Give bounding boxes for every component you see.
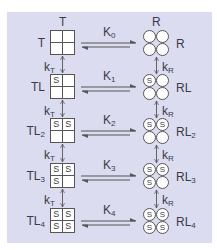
equilibrium-constant-label: K2 xyxy=(103,114,115,126)
tense-state-square: SS xyxy=(50,118,75,143)
subunit-circle: S xyxy=(143,118,156,131)
kr-rate-label: kR xyxy=(162,194,174,206)
relaxed-state-circles: SSS xyxy=(143,163,170,190)
tense-state-square: SSS xyxy=(50,163,75,188)
subunit-cell xyxy=(63,87,75,98)
equilibrium-arrows-icon xyxy=(80,173,138,183)
tense-state-square: SSSS xyxy=(50,208,75,233)
subunit-cell xyxy=(63,176,75,187)
equilibrium-constant-label: K3 xyxy=(103,159,115,171)
kt-rate-label: kT xyxy=(44,105,55,117)
relaxed-state-label: RL4 xyxy=(176,216,196,228)
subunit-cell: S xyxy=(51,209,63,221)
subunit-circle: S xyxy=(143,74,156,87)
subunit-cell xyxy=(51,43,63,55)
subunit-cell xyxy=(51,131,63,142)
subunit-cell: S xyxy=(63,209,75,221)
equilibrium-constant-label: K4 xyxy=(103,204,115,216)
kt-rate-label: kT xyxy=(44,61,55,73)
kt-rate-label: kT xyxy=(44,194,55,206)
subunit-circle xyxy=(143,87,156,100)
vertical-equilibrium-t-icon xyxy=(60,144,65,162)
subunit-circle: S xyxy=(143,176,156,189)
vertical-equilibrium-r-icon xyxy=(154,57,159,74)
vertical-equilibrium-t-icon xyxy=(60,56,65,73)
subunit-cell xyxy=(63,131,75,142)
subunit-cell: S xyxy=(51,164,63,176)
subunit-circle xyxy=(156,176,169,189)
equilibrium-arrows-icon xyxy=(80,128,138,138)
relaxed-state-label: R xyxy=(176,38,185,50)
subunit-cell xyxy=(63,31,75,43)
relaxed-state-label: RL2 xyxy=(176,126,196,138)
subunit-circle: S xyxy=(143,208,156,221)
relaxed-state-circles: SSSS xyxy=(143,208,170,235)
tense-state-square: S xyxy=(50,74,75,99)
subunit-cell: S xyxy=(63,119,75,131)
subunit-circle xyxy=(143,43,156,56)
tense-state-label: TL3 xyxy=(27,170,45,182)
subunit-cell xyxy=(51,31,63,43)
tense-state-label: T xyxy=(38,37,45,49)
kt-rate-label: kT xyxy=(44,149,55,161)
subunit-cell: S xyxy=(51,176,63,187)
relaxed-state-circles: SS xyxy=(143,118,170,145)
kr-rate-label: kR xyxy=(162,105,174,117)
tense-state-label: TL4 xyxy=(27,215,45,227)
equilibrium-arrows-icon xyxy=(80,84,138,94)
subunit-cell: S xyxy=(63,164,75,176)
equilibrium-constant-label: K1 xyxy=(103,70,115,82)
subunit-circle xyxy=(156,74,169,87)
subunit-cell: S xyxy=(51,75,63,87)
equilibrium-arrows-icon xyxy=(80,40,138,50)
equilibrium-constant-label: K0 xyxy=(103,26,115,38)
tense-state-square xyxy=(50,30,75,55)
vertical-equilibrium-r-icon xyxy=(154,190,159,208)
relaxed-state-label: RL3 xyxy=(176,171,196,183)
relaxed-state-circles: S xyxy=(143,74,170,101)
subunit-circle: S xyxy=(143,163,156,176)
subunit-cell xyxy=(63,75,75,87)
subunit-circle xyxy=(156,87,169,100)
subunit-cell xyxy=(63,43,75,55)
subunit-cell: S xyxy=(63,221,75,232)
vertical-equilibrium-r-icon xyxy=(154,145,159,163)
equilibrium-arrows-icon xyxy=(80,218,138,228)
relaxed-state-column-label: R xyxy=(152,16,161,28)
subunit-circle: S xyxy=(156,163,169,176)
subunit-circle xyxy=(143,30,156,43)
subunit-circle: S xyxy=(156,221,169,234)
subunit-cell xyxy=(51,87,63,98)
tense-state-label: TL xyxy=(31,81,45,93)
subunit-circle xyxy=(156,43,169,56)
subunit-cell: S xyxy=(51,221,63,232)
vertical-equilibrium-t-icon xyxy=(60,100,65,117)
subunit-circle xyxy=(143,131,156,144)
subunit-cell: S xyxy=(51,119,63,131)
kr-rate-label: kR xyxy=(162,61,174,73)
relaxed-state-label: RL xyxy=(176,82,191,94)
tense-state-label: TL2 xyxy=(27,125,45,137)
vertical-equilibrium-t-icon xyxy=(60,189,65,207)
subunit-circle xyxy=(156,131,169,144)
subunit-circle: S xyxy=(156,208,169,221)
subunit-circle xyxy=(156,30,169,43)
kr-rate-label: kR xyxy=(162,149,174,161)
subunit-circle: S xyxy=(156,118,169,131)
tense-state-column-label: T xyxy=(59,16,66,28)
subunit-circle: S xyxy=(143,221,156,234)
vertical-equilibrium-r-icon xyxy=(154,101,159,118)
relaxed-state-circles xyxy=(143,30,170,57)
